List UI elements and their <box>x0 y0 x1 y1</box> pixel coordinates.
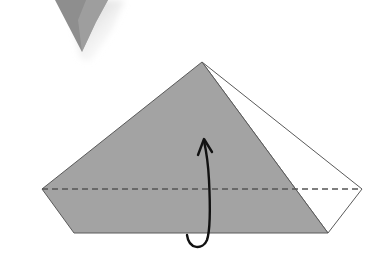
origami-diagram <box>0 0 369 271</box>
previous-step-fragment <box>55 0 125 62</box>
